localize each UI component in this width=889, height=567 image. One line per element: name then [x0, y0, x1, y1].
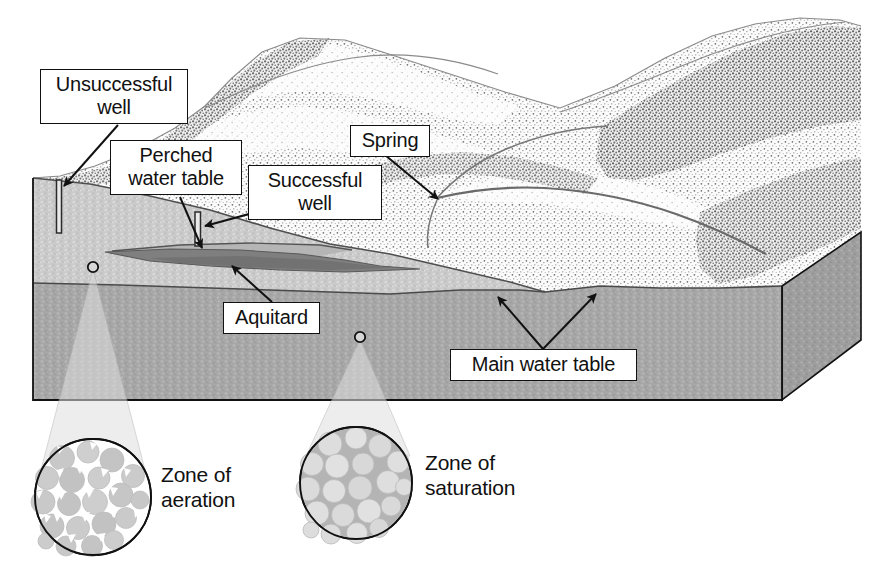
label-main-water-table: Main water table	[450, 349, 637, 381]
label-unsuccessful-well: Unsuccessful well	[40, 69, 188, 124]
saturated-zone	[33, 283, 782, 400]
label-perched-water-table: Perched water table	[110, 140, 242, 195]
callout-zone-of-saturation: Zone of saturation	[425, 450, 585, 500]
label-successful-well: Successful well	[248, 165, 382, 220]
callout-zone-of-aeration: Zone of aeration	[161, 462, 301, 512]
figure-canvas: Unsuccessful well Perched water table Su…	[0, 0, 889, 567]
label-spring: Spring	[350, 125, 430, 157]
well-unsuccessful[interactable]	[57, 180, 62, 233]
label-aquitard: Aquitard	[223, 302, 320, 334]
